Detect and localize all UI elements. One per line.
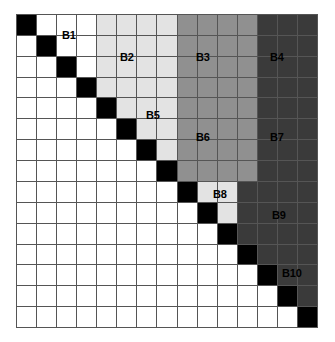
matrix-cell-r4-c10	[198, 78, 218, 99]
block-label-b7: B7	[270, 132, 284, 143]
matrix-cell-r7-c1	[17, 140, 37, 161]
matrix-cell-r11-c3	[57, 224, 77, 245]
matrix-cell-r15-c15	[298, 307, 318, 328]
matrix-cell-r2-c5	[97, 36, 117, 57]
matrix-cell-r9-c8	[157, 182, 177, 203]
block-label-b8: B8	[213, 189, 227, 200]
matrix-cell-r13-c4	[77, 265, 97, 286]
matrix-cell-r1-c15	[298, 15, 318, 36]
matrix-cell-r5-c6	[117, 98, 137, 119]
matrix-cell-r12-c6	[117, 245, 137, 266]
matrix-cell-r4-c1	[17, 78, 37, 99]
matrix-cell-r8-c11	[218, 161, 238, 182]
matrix-cell-r14-c15	[298, 286, 318, 307]
matrix-cell-r13-c13	[258, 265, 278, 286]
matrix-cell-r5-c9	[178, 98, 198, 119]
matrix-cell-r7-c10	[198, 140, 218, 161]
matrix-cell-r13-c12	[238, 265, 258, 286]
matrix-cell-r15-c14	[278, 307, 298, 328]
matrix-cell-r2-c7	[137, 36, 157, 57]
matrix-cell-r4-c11	[218, 78, 238, 99]
matrix-cell-r15-c3	[57, 307, 77, 328]
matrix-cell-r7-c3	[57, 140, 77, 161]
matrix-cell-r4-c15	[298, 78, 318, 99]
matrix-cell-r1-c9	[178, 15, 198, 36]
matrix-cell-r12-c2	[37, 245, 57, 266]
matrix-cell-r12-c14	[278, 245, 298, 266]
matrix-cell-r6-c15	[298, 119, 318, 140]
matrix-cell-r14-c6	[117, 286, 137, 307]
matrix-cell-r14-c7	[137, 286, 157, 307]
matrix-cell-r1-c13	[258, 15, 278, 36]
matrix-cell-r6-c11	[218, 119, 238, 140]
matrix-cell-r13-c2	[37, 265, 57, 286]
matrix-cell-r2-c8	[157, 36, 177, 57]
matrix-cell-r14-c12	[238, 286, 258, 307]
block-label-b3: B3	[196, 52, 210, 63]
matrix-cell-r12-c13	[258, 245, 278, 266]
matrix-cell-r1-c10	[198, 15, 218, 36]
matrix-cell-r1-c6	[117, 15, 137, 36]
matrix-cell-r11-c11	[218, 224, 238, 245]
matrix-cell-r12-c12	[238, 245, 258, 266]
matrix-cell-r7-c14	[278, 140, 298, 161]
matrix-cell-r5-c4	[77, 98, 97, 119]
matrix-cell-r14-c9	[178, 286, 198, 307]
matrix-cell-r8-c7	[137, 161, 157, 182]
matrix-cell-r4-c8	[157, 78, 177, 99]
matrix-cell-r15-c13	[258, 307, 278, 328]
matrix-cell-r9-c3	[57, 182, 77, 203]
matrix-cell-r10-c6	[117, 203, 137, 224]
matrix-cell-r13-c9	[178, 265, 198, 286]
matrix-cell-r13-c1	[17, 265, 37, 286]
matrix-cell-r3-c15	[298, 57, 318, 78]
matrix-cell-r10-c1	[17, 203, 37, 224]
matrix-cell-r1-c11	[218, 15, 238, 36]
matrix-cell-r15-c10	[198, 307, 218, 328]
matrix-cell-r4-c4	[77, 78, 97, 99]
matrix-cell-r9-c9	[178, 182, 198, 203]
matrix-cell-r14-c1	[17, 286, 37, 307]
matrix-cell-r15-c4	[77, 307, 97, 328]
matrix-cell-r9-c14	[278, 182, 298, 203]
matrix-cell-r10-c8	[157, 203, 177, 224]
matrix-cell-r5-c8	[157, 98, 177, 119]
matrix-cell-r14-c4	[77, 286, 97, 307]
matrix-cell-r11-c6	[117, 224, 137, 245]
matrix-cell-r7-c15	[298, 140, 318, 161]
matrix-cell-r13-c6	[117, 265, 137, 286]
matrix-cell-r8-c12	[238, 161, 258, 182]
matrix-cell-r8-c8	[157, 161, 177, 182]
matrix-cell-r7-c2	[37, 140, 57, 161]
block-label-b2: B2	[120, 52, 134, 63]
matrix-cell-r15-c7	[137, 307, 157, 328]
matrix-cell-r14-c10	[198, 286, 218, 307]
matrix-cell-r2-c4	[77, 36, 97, 57]
matrix-cell-r2-c11	[218, 36, 238, 57]
matrix-cell-r2-c12	[238, 36, 258, 57]
matrix-cell-r7-c7	[137, 140, 157, 161]
matrix-cell-r10-c15	[298, 203, 318, 224]
matrix-cell-r7-c4	[77, 140, 97, 161]
matrix-cell-r9-c4	[77, 182, 97, 203]
matrix-cell-r3-c9	[178, 57, 198, 78]
matrix-cell-r6-c6	[117, 119, 137, 140]
matrix-cell-r4-c5	[97, 78, 117, 99]
matrix-cell-r4-c13	[258, 78, 278, 99]
matrix-cell-r5-c1	[17, 98, 37, 119]
matrix-cell-r2-c15	[298, 36, 318, 57]
matrix-cell-r6-c5	[97, 119, 117, 140]
matrix-cell-r3-c4	[77, 57, 97, 78]
matrix-cell-r13-c7	[137, 265, 157, 286]
matrix-cell-r15-c8	[157, 307, 177, 328]
matrix-cell-r11-c14	[278, 224, 298, 245]
matrix-cell-r1-c14	[278, 15, 298, 36]
matrix-cell-r8-c2	[37, 161, 57, 182]
matrix-cell-r6-c2	[37, 119, 57, 140]
matrix-cell-r9-c7	[137, 182, 157, 203]
matrix-cell-r4-c14	[278, 78, 298, 99]
matrix-cell-r5-c12	[238, 98, 258, 119]
block-label-b6: B6	[196, 132, 210, 143]
matrix-cell-r15-c11	[218, 307, 238, 328]
matrix-cell-r3-c2	[37, 57, 57, 78]
